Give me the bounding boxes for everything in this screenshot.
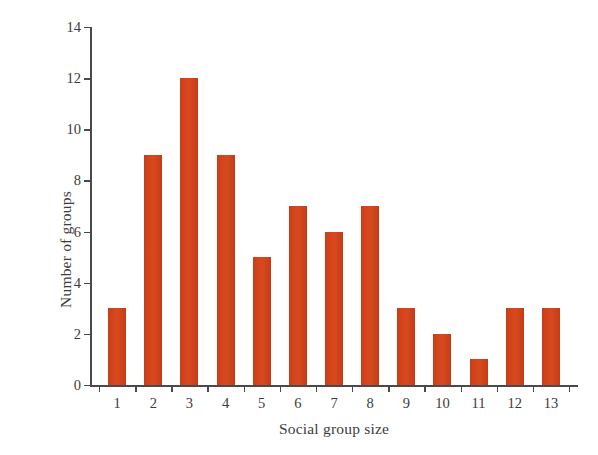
x-axis-tick-label: 10: [435, 395, 450, 412]
y-axis-line: [90, 27, 92, 385]
x-axis-tick-mark: [388, 385, 389, 392]
x-axis-tick-mark: [99, 385, 100, 392]
x-axis-tick-mark: [461, 385, 462, 392]
x-axis-tick-mark: [280, 385, 281, 392]
bar: [361, 206, 379, 385]
x-axis-tick-label: 8: [367, 395, 374, 412]
y-axis-tick-mark: [84, 334, 90, 335]
x-axis-tick-mark: [352, 385, 353, 392]
bar: [325, 232, 343, 385]
x-axis-tick-mark: [569, 385, 570, 392]
x-axis-tick-label: 6: [294, 395, 301, 412]
y-axis-tick-mark: [84, 78, 90, 79]
x-axis-tick-mark: [244, 385, 245, 392]
y-axis-tick-label: 6: [74, 223, 81, 240]
x-axis-tick-label: 7: [330, 395, 337, 412]
y-axis-tick-mark: [84, 283, 90, 284]
y-axis-tick-mark: [84, 232, 90, 233]
x-axis-tick-label: 4: [222, 395, 229, 412]
bar: [506, 308, 524, 385]
x-axis-tick-mark: [533, 385, 534, 392]
bar: [397, 308, 415, 385]
x-axis-tick-mark: [497, 385, 498, 392]
bar: [253, 257, 271, 385]
x-axis-tick-label: 11: [472, 395, 486, 412]
x-axis-tick-label: 3: [186, 395, 193, 412]
bar: [108, 308, 126, 385]
bar: [144, 155, 162, 385]
bar: [289, 206, 307, 385]
y-axis-tick-label: 12: [67, 70, 82, 87]
bar: [180, 78, 198, 385]
y-axis-tick-label: 4: [74, 274, 81, 291]
x-axis-line: [90, 385, 578, 387]
y-axis-tick-mark: [84, 385, 90, 386]
y-axis-tick-label: 10: [67, 121, 82, 138]
x-axis-title: Social group size: [90, 420, 578, 438]
x-axis-tick-label: 1: [113, 395, 120, 412]
bar: [470, 359, 488, 385]
bar: [542, 308, 560, 385]
x-axis-tick-label: 9: [403, 395, 410, 412]
x-axis-tick-label: 5: [258, 395, 265, 412]
y-axis-tick-mark: [84, 129, 90, 130]
x-axis-tick-label: 13: [544, 395, 559, 412]
y-axis-title: Number of groups: [44, 0, 88, 455]
x-axis-tick-label: 2: [150, 395, 157, 412]
x-axis-tick-mark: [424, 385, 425, 392]
y-axis-tick-mark: [84, 27, 90, 28]
x-axis-tick-mark: [207, 385, 208, 392]
x-axis-tick-mark: [135, 385, 136, 392]
y-axis-tick-label: 2: [74, 325, 81, 342]
bar-chart-figure: Number of groups 02468101214 12345678910…: [0, 0, 598, 455]
x-axis-tick-label: 12: [507, 395, 522, 412]
x-axis-tick-mark: [316, 385, 317, 392]
y-axis-tick-label: 0: [74, 377, 81, 394]
x-axis-tick-mark: [171, 385, 172, 392]
bar: [433, 334, 451, 385]
bar: [217, 155, 235, 385]
y-axis-title-label: Number of groups: [57, 191, 75, 308]
y-axis-tick-label: 8: [74, 172, 81, 189]
y-axis-tick-label: 14: [67, 19, 82, 36]
y-axis-tick-mark: [84, 180, 90, 181]
plot-area: 02468101214 12345678910111213: [90, 27, 578, 385]
